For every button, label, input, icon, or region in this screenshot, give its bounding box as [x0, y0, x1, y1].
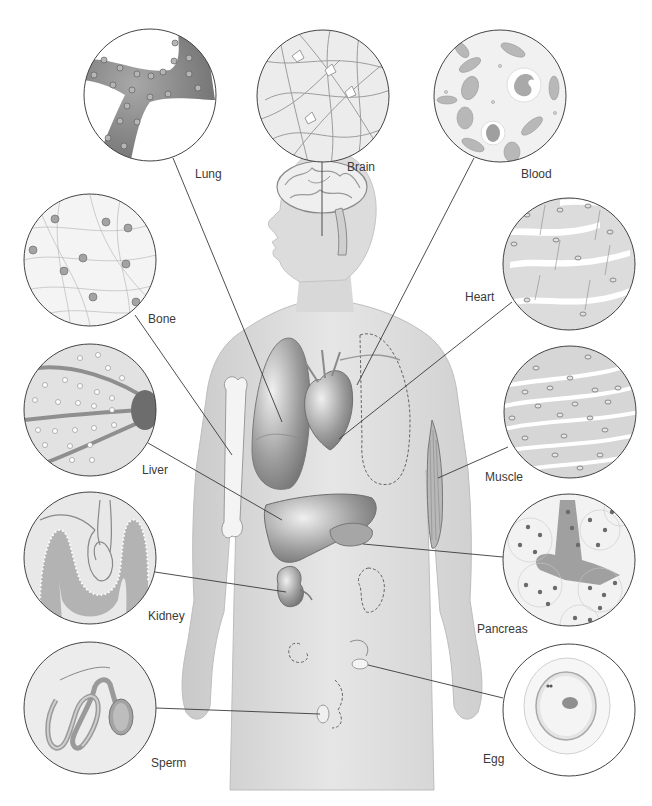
liver-cells-inset: [24, 344, 159, 476]
cell-types-diagram: Lung Brain Blood Bone Heart Liver Muscle…: [0, 0, 652, 806]
label-pancreas: Pancreas: [477, 622, 528, 636]
egg-cell-inset: [503, 644, 635, 776]
label-heart: Heart: [465, 290, 494, 304]
blood-cells-inset: [434, 30, 566, 162]
label-sperm: Sperm: [151, 756, 186, 770]
brain-neurons-inset: [257, 30, 390, 170]
label-muscle: Muscle: [485, 470, 523, 484]
bone-cells-inset: [24, 194, 156, 326]
label-egg: Egg: [483, 752, 504, 766]
heart-cells-inset: [500, 198, 640, 330]
pancreas-organ: [330, 523, 372, 546]
label-liver: Liver: [142, 463, 168, 477]
lung-cells-inset: [80, 29, 216, 165]
label-lung: Lung: [195, 167, 222, 181]
kidney-nephron-inset: [24, 492, 156, 624]
muscle-cells-inset: [500, 346, 640, 478]
label-bone: Bone: [148, 312, 176, 326]
label-brain: Brain: [347, 160, 375, 174]
sperm-duct-inset: [24, 642, 156, 774]
label-blood: Blood: [521, 167, 552, 181]
diagram-canvas: [0, 0, 652, 806]
label-kidney: Kidney: [148, 609, 185, 623]
